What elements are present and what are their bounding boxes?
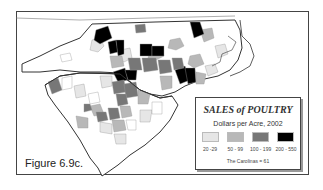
legend-class-label: 20 -29: [203, 146, 217, 152]
map-legend: SALES of POULTRY Dollars per Acre, 2002 …: [195, 97, 301, 170]
legend-class-label: 200 - 550: [275, 146, 296, 152]
legend-class-label: 50 - 99: [228, 146, 244, 152]
legend-class-label: 100 - 199: [250, 146, 271, 152]
legend-swatches: 20 -29 50 - 99 100 - 199 200 - 550: [198, 132, 298, 152]
legend-swatch: [202, 132, 219, 142]
legend-class: 50 - 99: [223, 132, 247, 152]
figure-label: Figure 6.9c.: [25, 157, 83, 169]
legend-swatch: [277, 132, 294, 142]
legend-class: 100 - 199: [249, 132, 273, 152]
legend-note: The Carolinas = 61: [196, 158, 300, 164]
legend-swatch: [227, 132, 244, 142]
legend-class: 20 -29: [198, 132, 222, 152]
legend-swatch: [252, 132, 269, 142]
virginia-border: [16, 16, 235, 20]
legend-class: 200 - 550: [274, 132, 298, 152]
legend-subtitle: Dollars per Acre, 2002: [196, 120, 300, 127]
legend-title: SALES of POULTRY: [196, 104, 300, 115]
